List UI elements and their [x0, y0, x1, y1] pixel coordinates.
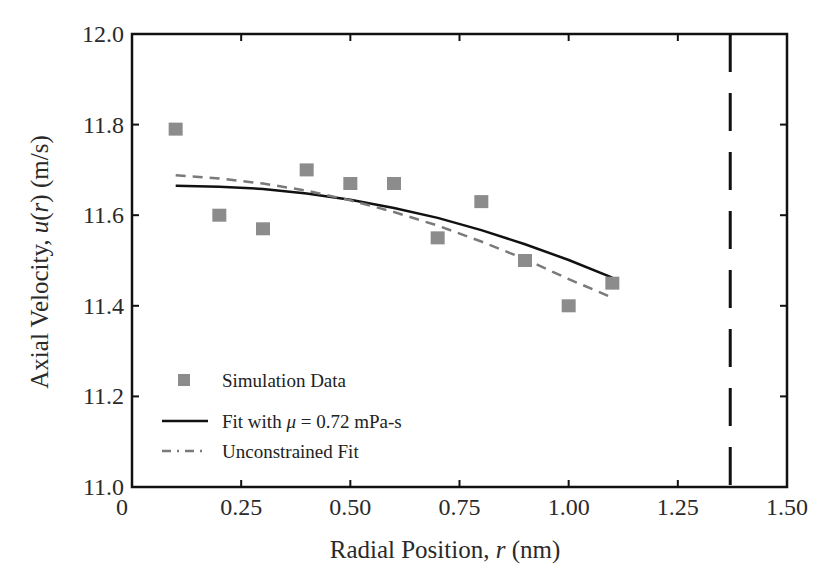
data-point: [431, 231, 445, 244]
data-point: [300, 163, 314, 176]
data-point: [387, 177, 401, 190]
fit-lines: [176, 175, 613, 297]
x-tick-label: 0.50: [329, 494, 371, 520]
y-axis-title: Axial Velocity, u(r) (m/s): [26, 135, 54, 388]
legend-label-unconstrained: Unconstrained Fit: [222, 441, 359, 462]
x-tick-label: 1.00: [548, 494, 590, 520]
data-point: [212, 209, 226, 222]
legend: Simulation Data Fit with μ = 0.72 mPa-s …: [162, 370, 402, 462]
constrained-fit-line: [176, 186, 613, 278]
y-axis-ticks: 11.011.211.411.611.812.0: [82, 21, 787, 500]
y-tick-label: 12.0: [82, 21, 124, 47]
x-axis-ticks: 00.250.500.751.001.251.50: [116, 34, 808, 520]
x-tick-label: 0.75: [439, 494, 481, 520]
data-point: [562, 299, 576, 312]
y-tick-label: 11.4: [83, 293, 124, 319]
x-tick-label: 1.25: [657, 494, 699, 520]
legend-label-fit: Fit with μ = 0.72 mPa-s: [222, 411, 402, 432]
data-point: [169, 123, 183, 136]
x-tick-label: 1.50: [766, 494, 808, 520]
legend-label-simulation: Simulation Data: [222, 370, 347, 391]
data-point: [518, 254, 532, 267]
data-point: [256, 222, 270, 235]
x-axis-title: Radial Position, r (nm): [330, 536, 561, 564]
data-point: [474, 195, 488, 208]
chart: 00.250.500.751.001.251.50 11.011.211.411…: [0, 0, 825, 576]
y-tick-label: 11.2: [83, 383, 124, 409]
x-tick-label: 0.25: [220, 494, 262, 520]
y-tick-label: 11.0: [83, 474, 124, 500]
unconstrained-fit-line: [176, 175, 613, 297]
y-tick-label: 11.8: [83, 112, 124, 138]
data-point: [605, 277, 619, 290]
y-tick-label: 11.6: [83, 202, 124, 228]
legend-marker-square: [178, 374, 190, 386]
simulation-data-points: [169, 123, 620, 313]
data-point: [343, 177, 357, 190]
